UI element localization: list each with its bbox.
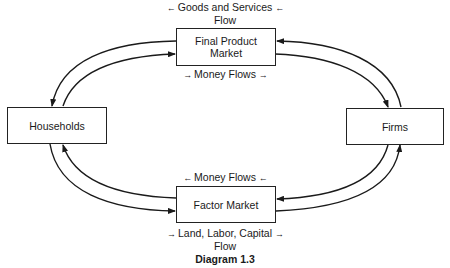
arrow-money-to-households [63,145,176,198]
final-product-market-node: Final Product Market [176,28,276,66]
arrow-right-icon: → [259,70,267,80]
arrow-right-icon: → [167,229,175,239]
arrow-money-to-product-market [63,54,175,106]
land-labor-capital-flow-label: → Land, Labor, Capital → Flow [140,227,310,252]
arrow-left-icon: ← [183,173,191,183]
firms-node: Firms [346,108,444,145]
money-flows-bottom-label: ← Money Flows ← [165,171,285,184]
arrow-goods-to-households [52,41,176,106]
arrow-right-icon: → [183,70,191,80]
arrow-factors-from-households [50,144,175,211]
arrow-left-icon: ← [259,173,267,183]
arrow-factors-to-firms [276,145,400,211]
money-flows-top-label: → Money Flows → [165,68,285,81]
arrow-money-to-firms [275,54,388,107]
factor-market-node: Factor Market [176,186,276,223]
households-node: Households [7,107,107,144]
arrow-left-icon: ← [167,3,175,13]
arrow-right-icon: → [275,229,283,239]
diagram-title: Diagram 1.3 [175,253,275,265]
arrow-left-icon: ← [275,3,283,13]
goods-services-flow-label: ← Goods and Services ← Flow [140,1,310,26]
arrow-money-from-firms [277,145,388,199]
